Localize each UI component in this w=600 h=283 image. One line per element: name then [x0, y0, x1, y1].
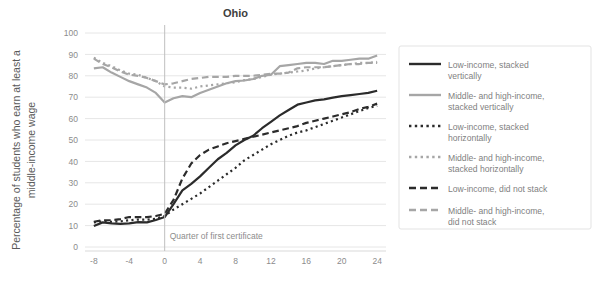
series-lines	[94, 55, 377, 226]
y-tick-label: 10	[69, 221, 79, 231]
legend-label: did not stack	[448, 217, 497, 227]
chart-legend: Low-income, stackedverticallyMiddle- and…	[399, 46, 591, 229]
x-tick-label: 24	[372, 256, 382, 266]
y-tick-label: 40	[69, 157, 79, 167]
legend-label: stacked vertically	[448, 102, 514, 112]
y-tick-label: 30	[69, 178, 79, 188]
legend-label: Middle- and high-income,	[448, 91, 545, 101]
y-tick-label: 100	[64, 28, 78, 38]
y-tick-label: 50	[69, 135, 79, 145]
y-tick-label: 0	[73, 242, 78, 252]
x-tick-label: -8	[90, 256, 98, 266]
chart-annotations: Quarter of first certificate	[170, 231, 263, 241]
chart-figure: 0102030405060708090100 -8-404812162024 O…	[0, 0, 600, 283]
annotation-label: Quarter of first certificate	[170, 231, 263, 241]
chart-title-group: Ohio	[223, 7, 248, 19]
y-tick-label: 80	[69, 71, 79, 81]
y-axis-tick-labels: 0102030405060708090100	[64, 28, 78, 252]
legend-label: Low-income, did not stack	[448, 184, 548, 194]
y-tick-label: 60	[69, 114, 79, 124]
y-tick-label: 90	[69, 50, 79, 60]
y-axis-title-line: middle-income wage	[25, 102, 37, 198]
series-line-0	[94, 91, 377, 226]
x-tick-label: 12	[266, 256, 276, 266]
x-tick-label: 4	[198, 256, 203, 266]
x-tick-label: 0	[162, 256, 167, 266]
legend-label: Low-income, stacked	[448, 122, 529, 132]
legend-label: Low-income, stacked	[448, 60, 529, 70]
legend-label: vertically	[448, 71, 482, 81]
x-tick-label: -4	[125, 256, 133, 266]
chart-title: Ohio	[223, 7, 248, 19]
legend-label: Middle- and high-income,	[448, 206, 545, 216]
x-axis-tick-labels: -8-404812162024	[90, 256, 382, 266]
legend-label: Middle- and high-income,	[448, 153, 545, 163]
y-tick-label: 70	[69, 92, 79, 102]
y-axis-title: Percentage of students who earn at least…	[10, 50, 37, 250]
y-axis-title-line: Percentage of students who earn at least…	[10, 50, 22, 250]
y-axis-title-group: Percentage of students who earn at least…	[10, 50, 37, 250]
series-line-1	[94, 55, 377, 102]
x-tick-label: 16	[302, 256, 312, 266]
x-tick-label: 20	[337, 256, 347, 266]
series-line-2	[94, 106, 377, 223]
x-tick-label: 8	[233, 256, 238, 266]
y-tick-label: 20	[69, 199, 79, 209]
legend-label: stacked horizontally	[448, 164, 524, 174]
legend-label: horizontally	[448, 133, 492, 143]
legend-panel	[399, 46, 591, 229]
